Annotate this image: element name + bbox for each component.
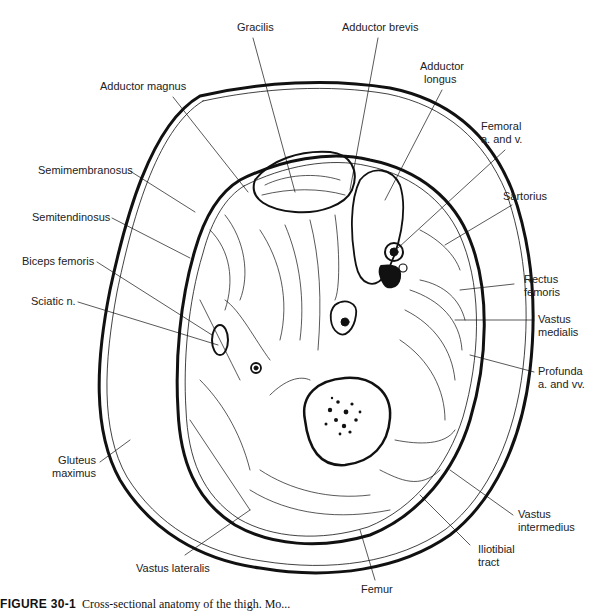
label-adductor-magnus: Adductor magnus — [100, 80, 186, 93]
caption-label: FIGURE 30-1 — [0, 597, 76, 611]
label-femur: Femur — [361, 583, 393, 596]
label-rectus-femoris: Rectus femoris — [524, 273, 560, 299]
label-vastus-lateralis: Vastus lateralis — [136, 562, 210, 575]
femoral-vein — [380, 265, 401, 287]
subcutaneous-line — [107, 88, 526, 565]
label-gracilis: Gracilis — [237, 21, 274, 34]
label-gluteus-maximus: Gluteus maximus — [50, 454, 96, 480]
label-vastus-medialis: Vastus medialis — [538, 313, 578, 339]
gracilis-muscle — [254, 152, 355, 213]
leader-lines — [78, 38, 534, 580]
label-vastus-intermedius: Vastus intermedius — [518, 508, 575, 534]
marrow-dots — [325, 397, 362, 436]
figure-caption: FIGURE 30-1Cross-sectional anatomy of th… — [0, 597, 290, 612]
label-adductor-longus: Adductor longus — [420, 60, 464, 86]
label-adductor-brevis: Adductor brevis — [342, 21, 418, 34]
label-sciatic-nerve: Sciatic n. — [31, 295, 76, 308]
label-semitendinosus: Semitendinosus — [32, 211, 110, 224]
label-profunda-vessels: Profunda a. and vv. — [538, 365, 585, 391]
femur-bone — [304, 378, 390, 465]
label-femoral-vessels: Femoral a. and v. — [481, 120, 522, 146]
label-semimembranosus: Semimembranosus — [38, 164, 133, 177]
label-biceps-femoris: Biceps femoris — [22, 255, 94, 268]
muscle-fibers — [190, 175, 465, 514]
caption-text: Cross-sectional anatomy of the thigh. Mo… — [82, 597, 290, 611]
deep-fascia — [177, 156, 484, 544]
label-iliotibial-tract: Iliotibial tract — [478, 543, 515, 569]
label-sartorius: Sartorius — [503, 190, 547, 203]
